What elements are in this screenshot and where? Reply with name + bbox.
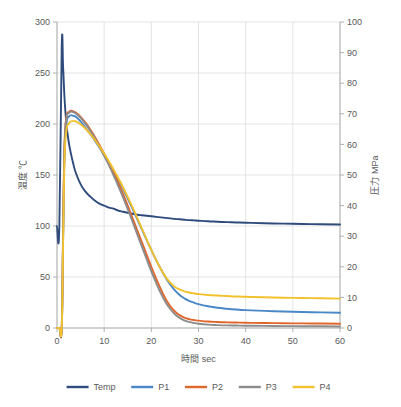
legend-item-p2[interactable]: P2 — [185, 382, 223, 392]
x-axis-title: 時間 sec — [181, 354, 216, 364]
y-tick-label: 200 — [35, 119, 50, 129]
y2-tick-label: 40 — [347, 201, 357, 211]
y2-tick-label: 60 — [347, 140, 357, 150]
x-axis-ticks: 0102030405060 — [54, 328, 345, 346]
legend-item-p3[interactable]: P3 — [239, 382, 277, 392]
legend-label: P2 — [212, 382, 223, 392]
y2-tick-label: 50 — [347, 170, 357, 180]
y2-tick-label: 20 — [347, 262, 357, 272]
y2-tick-label: 30 — [347, 231, 357, 241]
y-tick-label: 300 — [35, 17, 50, 27]
y-tick-label: 150 — [35, 170, 50, 180]
legend-item-p1[interactable]: P1 — [131, 382, 169, 392]
y-axis-title: 温度 ℃ — [17, 160, 28, 190]
legend-label: P4 — [320, 382, 331, 392]
x-tick-label: 10 — [99, 336, 109, 346]
x-tick-label: 60 — [335, 336, 345, 346]
y2-tick-label: 70 — [347, 109, 357, 119]
chart-legend: TempP1P2P3P4 — [67, 382, 331, 392]
x-tick-label: 50 — [288, 336, 298, 346]
x-tick-label: 0 — [54, 336, 59, 346]
legend-label: P3 — [266, 382, 277, 392]
legend-label: Temp — [94, 382, 116, 392]
chart-container: 050100150200250300 010203040506070809010… — [0, 0, 401, 407]
y2-axis-ticks: 0102030405060708090100 — [340, 17, 362, 333]
x-tick-label: 30 — [193, 336, 203, 346]
legend-label: P1 — [158, 382, 169, 392]
legend-item-temp[interactable]: Temp — [67, 382, 116, 392]
y2-tick-label: 90 — [347, 48, 357, 58]
y2-axis-title: 圧力 MPa — [369, 155, 380, 194]
y-tick-label: 50 — [40, 272, 50, 282]
gridlines — [57, 22, 340, 328]
y2-tick-label: 0 — [347, 323, 352, 333]
y-tick-label: 0 — [45, 323, 50, 333]
y2-tick-label: 80 — [347, 78, 357, 88]
y-tick-label: 250 — [35, 68, 50, 78]
y-tick-label: 100 — [35, 221, 50, 231]
line-chart: 050100150200250300 010203040506070809010… — [0, 0, 401, 407]
legend-item-p4[interactable]: P4 — [293, 382, 331, 392]
y2-tick-label: 10 — [347, 293, 357, 303]
x-tick-label: 20 — [146, 336, 156, 346]
y2-tick-label: 100 — [347, 17, 362, 27]
y-axis-ticks: 050100150200250300 — [35, 17, 57, 333]
x-tick-label: 40 — [241, 336, 251, 346]
